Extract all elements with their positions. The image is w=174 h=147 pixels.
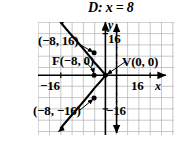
point-lower-label: (−8, −16) xyxy=(33,104,81,117)
x-axis-letter: x xyxy=(155,80,161,92)
y-tick-pos-label: 16 xyxy=(108,32,121,45)
y-axis-letter: y xyxy=(108,19,113,31)
focus-dot xyxy=(92,73,97,78)
directrix-label: D: x = 8 xyxy=(88,1,134,15)
focus-label: F(−8, 0) xyxy=(52,54,94,67)
parabola-figure xyxy=(0,0,174,147)
vertex-label: V(0, 0) xyxy=(122,55,158,68)
vertex-dot xyxy=(103,73,108,78)
x-tick-neg-label: −16 xyxy=(40,79,60,92)
x-tick-pos-label: 16 xyxy=(131,79,144,92)
point-upper-label: (−8, 16) xyxy=(38,34,78,47)
y-tick-neg-label: −16 xyxy=(106,104,126,117)
